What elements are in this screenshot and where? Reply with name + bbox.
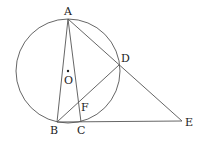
label-d: D [121,52,130,65]
segment-ab [57,19,68,122]
label-a: A [63,5,73,18]
geometry-diagram: A B C D E F O [0,0,202,141]
segment-ac [68,19,81,122]
label-e: E [185,116,193,129]
segment-be [57,121,182,122]
center-dot-o [67,70,69,72]
label-o: O [64,74,73,87]
label-b: B [50,124,58,137]
label-c: C [77,124,85,137]
label-f: F [81,101,89,114]
